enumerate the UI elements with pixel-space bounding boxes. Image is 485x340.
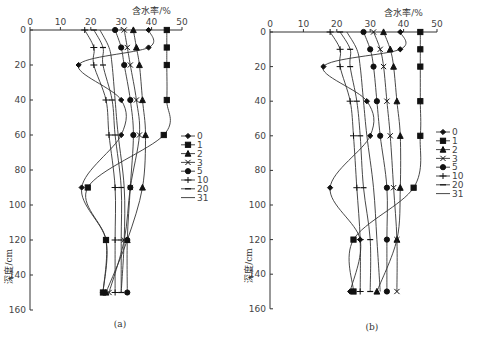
square-marker bbox=[418, 29, 423, 34]
triangle-marker bbox=[137, 62, 143, 68]
chart-panel-a: 01020304050020406080100120140160含水率/%深度/… bbox=[3, 5, 209, 329]
x-tick-label: 10 bbox=[55, 17, 67, 27]
y-tick-label: 160 bbox=[9, 305, 26, 315]
circle-marker bbox=[128, 185, 133, 190]
circle-marker bbox=[131, 132, 136, 137]
x-tick-label: 50 bbox=[176, 17, 188, 27]
square-marker bbox=[411, 185, 416, 190]
series-10 bbox=[327, 29, 364, 295]
circle-marker bbox=[384, 289, 389, 294]
x-marker bbox=[378, 47, 383, 52]
plus-marker bbox=[357, 237, 364, 243]
plus-marker bbox=[185, 177, 192, 183]
y-axis-title: 深度/cm bbox=[243, 248, 254, 283]
plus-marker bbox=[90, 45, 97, 51]
series-line bbox=[374, 32, 398, 292]
x-tick-label: 0 bbox=[267, 19, 273, 29]
x-tick-label: 0 bbox=[27, 17, 33, 27]
plus-marker bbox=[112, 290, 119, 296]
series-5 bbox=[361, 29, 390, 294]
x-tick-label: 40 bbox=[398, 19, 410, 29]
triangle-marker bbox=[397, 133, 403, 139]
y-tick-label: 100 bbox=[249, 200, 266, 210]
circle-marker bbox=[384, 237, 389, 242]
square-marker bbox=[164, 62, 169, 67]
diamond-marker bbox=[368, 133, 373, 138]
square-marker bbox=[85, 185, 90, 190]
x-tick-label: 30 bbox=[115, 17, 127, 27]
x-tick-label: 30 bbox=[364, 19, 376, 29]
circle-marker bbox=[119, 45, 124, 50]
legend: 01235102031 bbox=[436, 127, 464, 199]
series-20 bbox=[91, 30, 124, 293]
x-tick-label: 40 bbox=[146, 17, 158, 27]
plus-marker bbox=[90, 62, 97, 68]
y-tick-label: 100 bbox=[9, 200, 26, 210]
plus-marker bbox=[350, 133, 357, 139]
diamond-marker bbox=[398, 47, 403, 52]
triangle-marker bbox=[374, 288, 380, 294]
square-marker bbox=[103, 237, 108, 242]
series-line bbox=[330, 32, 360, 292]
plus-marker bbox=[112, 237, 119, 243]
triangle-marker bbox=[134, 44, 140, 50]
square-marker bbox=[164, 45, 169, 50]
panel-caption: (b) bbox=[366, 322, 379, 332]
diamond-marker bbox=[328, 185, 333, 190]
square-marker bbox=[185, 142, 190, 147]
circle-marker bbox=[374, 99, 379, 104]
circle-marker bbox=[125, 290, 130, 295]
series-line bbox=[109, 30, 140, 293]
plus-marker bbox=[112, 185, 119, 191]
y-tick-label: 80 bbox=[15, 165, 27, 175]
y-tick-label: 120 bbox=[9, 235, 26, 245]
figure-canvas: 01020304050020406080100120140160含水率/%深度/… bbox=[0, 0, 485, 340]
circle-marker bbox=[378, 133, 383, 138]
triangle-marker bbox=[140, 184, 146, 190]
plus-marker bbox=[347, 98, 354, 104]
legend-label: 31 bbox=[197, 193, 208, 203]
y-tick-label: 60 bbox=[15, 130, 27, 140]
series-line bbox=[106, 30, 146, 293]
y-tick-label: 120 bbox=[249, 235, 266, 245]
plus-marker bbox=[337, 64, 344, 70]
x-tick-label: 20 bbox=[331, 19, 343, 29]
y-tick-label: 60 bbox=[255, 131, 267, 141]
diamond-marker bbox=[398, 29, 403, 34]
diamond-marker bbox=[79, 185, 84, 190]
square-marker bbox=[351, 289, 356, 294]
plus-marker bbox=[440, 173, 447, 179]
plus-marker bbox=[81, 27, 88, 33]
circle-marker bbox=[113, 27, 118, 32]
y-tick-label: 0 bbox=[260, 27, 266, 37]
plus-marker bbox=[106, 132, 113, 138]
legend-label: 31 bbox=[452, 189, 463, 199]
square-marker bbox=[164, 97, 169, 102]
square-marker bbox=[418, 64, 423, 69]
y-tick-label: 40 bbox=[15, 95, 27, 105]
circle-marker bbox=[368, 47, 373, 52]
y-axis-title: 深度/cm bbox=[3, 248, 14, 283]
y-tick-label: 0 bbox=[20, 25, 26, 35]
circle-marker bbox=[440, 165, 445, 170]
series-31 bbox=[347, 32, 380, 292]
circle-marker bbox=[122, 62, 127, 67]
y-tick-label: 80 bbox=[255, 165, 267, 175]
circle-marker bbox=[185, 169, 190, 174]
series-line bbox=[78, 30, 154, 293]
circle-marker bbox=[384, 185, 389, 190]
x-axis-title: 含水率/% bbox=[132, 5, 171, 16]
square-marker bbox=[440, 138, 445, 143]
x-tick-label: 20 bbox=[85, 17, 97, 27]
chart-panel-b: 01020304050020406080100120140160含水率/%深度/… bbox=[243, 7, 464, 332]
square-marker bbox=[418, 133, 423, 138]
series-2 bbox=[374, 29, 403, 294]
circle-marker bbox=[371, 64, 376, 69]
triangle-marker bbox=[394, 98, 400, 104]
triangle-marker bbox=[397, 185, 403, 191]
plus-marker bbox=[353, 185, 360, 191]
y-tick-label: 20 bbox=[15, 60, 27, 70]
legend: 01235102031 bbox=[181, 131, 209, 203]
panel-caption: (a) bbox=[114, 319, 126, 329]
square-marker bbox=[351, 237, 356, 242]
